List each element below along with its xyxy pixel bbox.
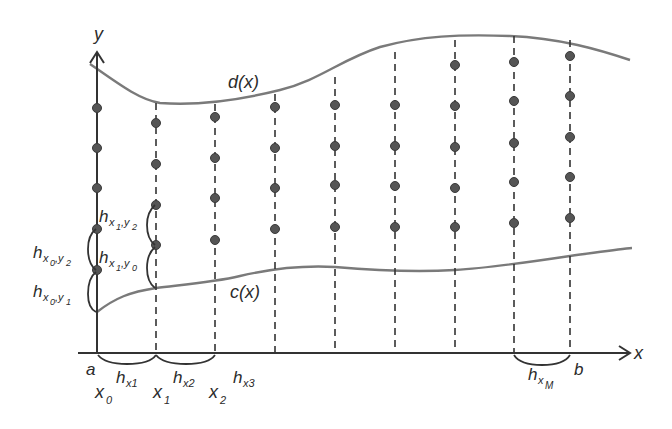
x2-label: x 2: [208, 382, 226, 406]
svg-text:x: x: [42, 291, 49, 303]
lower-curve-label: c(x): [230, 282, 260, 302]
svg-text:1: 1: [66, 297, 71, 307]
svg-text:2: 2: [65, 258, 71, 268]
svg-text:x3: x3: [242, 377, 256, 389]
endpoint-a-label: a: [86, 360, 95, 379]
svg-text:x: x: [108, 216, 115, 228]
svg-text:x: x: [108, 257, 115, 269]
svg-text:x: x: [208, 382, 219, 402]
svg-text:,y: ,y: [55, 291, 65, 303]
svg-text:h: h: [173, 368, 182, 387]
svg-text:h: h: [99, 248, 108, 267]
svg-text:0: 0: [106, 394, 113, 406]
svg-text:h: h: [116, 368, 125, 387]
upper-curve-label: d(x): [228, 72, 259, 92]
svg-text:h: h: [528, 365, 537, 384]
hx2-label: h x2: [173, 368, 195, 389]
svg-text:,y: ,y: [121, 257, 131, 269]
y-axis-label: y: [92, 24, 104, 44]
diagram-canvas: y x d(x) c(x) a b x 0 x 1 x 2 h x1 h x2 …: [0, 0, 672, 429]
hx3-label: h x3: [233, 368, 256, 389]
horizontal-step-braces: [98, 355, 570, 365]
svg-text:,y: ,y: [121, 216, 131, 228]
svg-text:2: 2: [131, 222, 137, 232]
svg-text:x1: x1: [125, 377, 138, 389]
x0-label: x 0: [94, 382, 113, 406]
svg-text:h: h: [233, 368, 242, 387]
lower-boundary-curve-c: [97, 248, 632, 312]
x1-label: x 1: [152, 382, 170, 406]
svg-text:M: M: [545, 380, 554, 391]
svg-text:1: 1: [164, 394, 170, 406]
hx0y1-label: h x 0 ,y 1: [33, 282, 71, 307]
hx1-label: h x1: [116, 368, 138, 389]
svg-text:0: 0: [132, 263, 137, 273]
hx1y2-label: h x 1 ,y 2: [99, 207, 137, 232]
hx1y0-label: h x 1 ,y 0: [99, 248, 137, 273]
endpoint-b-label: b: [574, 360, 583, 379]
svg-text:x: x: [537, 374, 544, 386]
x-axis-label: x: [633, 343, 644, 363]
hxM-label: h x M: [528, 365, 554, 391]
svg-text:h: h: [33, 243, 42, 262]
grid-points: [93, 52, 575, 275]
svg-text:2: 2: [219, 394, 226, 406]
svg-text:x: x: [42, 252, 49, 264]
svg-text:x2: x2: [182, 377, 195, 389]
svg-text:,y: ,y: [55, 252, 65, 264]
hx0y2-label: h x 0 ,y 2: [33, 243, 71, 268]
svg-text:x: x: [152, 382, 163, 402]
svg-text:x: x: [94, 382, 105, 402]
upper-boundary-curve-d: [90, 35, 630, 103]
svg-text:h: h: [99, 207, 108, 226]
svg-text:h: h: [33, 282, 42, 301]
x-axis: [78, 346, 630, 360]
